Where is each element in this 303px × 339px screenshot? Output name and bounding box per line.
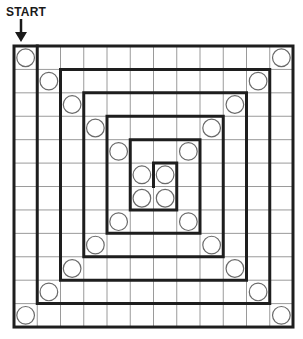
board-space[interactable]	[270, 210, 293, 233]
board-space[interactable]	[14, 233, 37, 256]
board-space[interactable]	[223, 280, 246, 303]
board-space[interactable]	[177, 140, 200, 163]
board-space[interactable]	[37, 210, 60, 233]
board-space[interactable]	[154, 46, 177, 69]
board-space[interactable]	[270, 187, 293, 210]
board-space[interactable]	[84, 163, 107, 186]
board-space[interactable]	[14, 93, 37, 116]
board-space[interactable]	[130, 163, 153, 186]
board-space[interactable]	[84, 304, 107, 327]
board-space[interactable]	[130, 304, 153, 327]
board-space[interactable]	[107, 233, 130, 256]
board-space[interactable]	[130, 210, 153, 233]
board-space[interactable]	[154, 280, 177, 303]
board-space[interactable]	[247, 304, 270, 327]
board-space[interactable]	[223, 187, 246, 210]
board-space[interactable]	[84, 210, 107, 233]
board-space[interactable]	[61, 116, 84, 139]
board-space[interactable]	[223, 46, 246, 69]
board-space[interactable]	[200, 163, 223, 186]
board-space[interactable]	[247, 69, 270, 92]
board-space[interactable]	[37, 304, 60, 327]
board-space[interactable]	[200, 116, 223, 139]
board-space[interactable]	[270, 69, 293, 92]
board-space[interactable]	[84, 69, 107, 92]
board-space[interactable]	[200, 69, 223, 92]
board-space[interactable]	[154, 187, 177, 210]
board-space[interactable]	[61, 163, 84, 186]
board-space[interactable]	[177, 280, 200, 303]
board-space[interactable]	[154, 233, 177, 256]
board-space[interactable]	[270, 304, 293, 327]
board-space[interactable]	[37, 233, 60, 256]
board-space[interactable]	[37, 93, 60, 116]
board-space[interactable]	[84, 93, 107, 116]
board-space[interactable]	[270, 163, 293, 186]
board-space[interactable]	[61, 257, 84, 280]
board-space[interactable]	[130, 93, 153, 116]
board-space[interactable]	[107, 187, 130, 210]
board-space[interactable]	[130, 187, 153, 210]
board-space[interactable]	[37, 163, 60, 186]
board-space[interactable]	[107, 163, 130, 186]
board-space[interactable]	[247, 280, 270, 303]
board-space[interactable]	[37, 257, 60, 280]
board-space[interactable]	[61, 210, 84, 233]
board-space[interactable]	[14, 116, 37, 139]
board-space[interactable]	[37, 116, 60, 139]
board-space[interactable]	[270, 46, 293, 69]
board-space[interactable]	[177, 257, 200, 280]
board-space[interactable]	[200, 187, 223, 210]
board-space[interactable]	[154, 140, 177, 163]
board-space[interactable]	[14, 257, 37, 280]
board-space[interactable]	[270, 140, 293, 163]
board-space[interactable]	[107, 69, 130, 92]
board-space[interactable]	[14, 163, 37, 186]
board-space[interactable]	[177, 210, 200, 233]
board-space[interactable]	[223, 233, 246, 256]
board-space[interactable]	[200, 46, 223, 69]
board-space[interactable]	[223, 210, 246, 233]
board-space[interactable]	[107, 257, 130, 280]
board-space[interactable]	[200, 93, 223, 116]
board-space[interactable]	[247, 46, 270, 69]
board-space[interactable]	[14, 210, 37, 233]
board-space[interactable]	[270, 257, 293, 280]
board-space[interactable]	[247, 187, 270, 210]
board-space[interactable]	[130, 116, 153, 139]
board-space[interactable]	[84, 257, 107, 280]
board-space[interactable]	[130, 46, 153, 69]
board-space[interactable]	[61, 280, 84, 303]
board-space[interactable]	[270, 93, 293, 116]
board-space[interactable]	[270, 280, 293, 303]
board-space[interactable]	[177, 304, 200, 327]
board-space[interactable]	[247, 93, 270, 116]
board-space[interactable]	[154, 210, 177, 233]
board-space[interactable]	[223, 304, 246, 327]
board-space[interactable]	[84, 46, 107, 69]
board-space[interactable]	[84, 187, 107, 210]
board-space[interactable]	[177, 233, 200, 256]
board-space[interactable]	[130, 233, 153, 256]
board-space[interactable]	[107, 140, 130, 163]
board-space[interactable]	[223, 163, 246, 186]
board-space[interactable]	[223, 69, 246, 92]
board-space[interactable]	[84, 280, 107, 303]
board-space[interactable]	[270, 233, 293, 256]
board-space[interactable]	[130, 69, 153, 92]
board-space[interactable]	[14, 46, 37, 69]
board-space[interactable]	[37, 46, 60, 69]
board-space[interactable]	[61, 140, 84, 163]
board-space[interactable]	[37, 280, 60, 303]
board-space[interactable]	[37, 140, 60, 163]
board-space[interactable]	[61, 46, 84, 69]
board-space[interactable]	[130, 257, 153, 280]
board-space[interactable]	[154, 304, 177, 327]
board-space[interactable]	[154, 69, 177, 92]
board-space[interactable]	[247, 257, 270, 280]
board-space[interactable]	[200, 280, 223, 303]
board-space[interactable]	[61, 233, 84, 256]
board-space[interactable]	[223, 116, 246, 139]
board-space[interactable]	[130, 280, 153, 303]
board-space[interactable]	[107, 116, 130, 139]
